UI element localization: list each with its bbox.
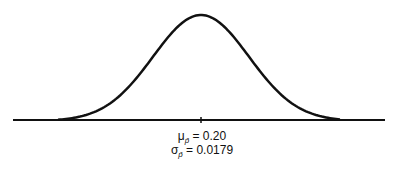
sd-label: σp̂ = 0.0179 [0, 144, 395, 158]
mean-label: μp̂ = 0.20 [0, 130, 395, 144]
density-curve [58, 15, 340, 120]
